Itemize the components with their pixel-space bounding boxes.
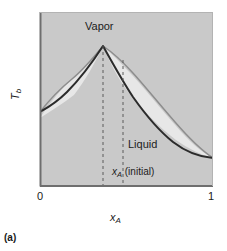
- x-axis-subscript: A: [116, 216, 121, 225]
- x-axis-tick-min: 0: [37, 191, 43, 202]
- xa-initial-text: (initial): [122, 166, 154, 177]
- liquid-region-label: Liquid: [128, 139, 157, 150]
- x-axis-tick-max: 1: [208, 191, 214, 202]
- xa-initial-label: xA (initial): [112, 167, 154, 179]
- y-axis-symbol: T: [9, 93, 21, 100]
- panel-caption: (a): [4, 233, 16, 243]
- vapor-region-label: Vapor: [85, 21, 114, 32]
- y-axis-label: Tb: [10, 89, 23, 100]
- x-axis-label: xA: [110, 212, 121, 225]
- y-axis-subscript: b: [14, 89, 23, 93]
- boiling-point-diagram-figure: Vapor Liquid xA (initial) 0 1 xA Tb (a): [0, 0, 227, 251]
